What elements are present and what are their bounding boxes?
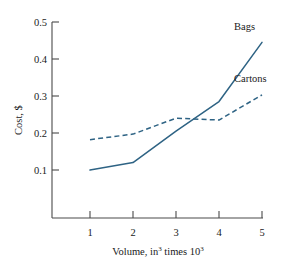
series-label-cartons: Cartons [234, 73, 267, 84]
y-tick-label-5: 0.5 [34, 17, 47, 28]
y-tick-label-4: 0.4 [34, 54, 48, 65]
chart-figure: 0.5 0.4 0.3 0.2 0.1 1 2 3 4 5 Volume, in… [0, 0, 285, 267]
x-axis-title-lead: Volume, in [112, 246, 159, 257]
x-tick-label-1: 1 [87, 227, 92, 238]
x-axis-title-mid: times 10 [162, 246, 201, 257]
x-axis-title: Volume, in3 times 103 [112, 245, 204, 257]
x-tick-label-2: 2 [130, 227, 135, 238]
x-axis-title-sup2: 3 [200, 245, 204, 253]
y-tick-label-3: 0.3 [34, 91, 47, 102]
y-tick-label-1: 0.1 [34, 165, 47, 176]
series-line-cartons [90, 95, 262, 140]
x-tick-label-3: 3 [173, 227, 178, 238]
series-label-bags: Bags [234, 21, 255, 32]
y-tick-label-2: 0.2 [34, 128, 47, 139]
series-line-bags [90, 42, 262, 170]
line-chart-canvas: 0.5 0.4 0.3 0.2 0.1 1 2 3 4 5 Volume, in… [0, 0, 285, 267]
x-tick-label-5: 5 [259, 227, 264, 238]
x-tick-label-4: 4 [216, 227, 222, 238]
y-axis-title: Cost, $ [13, 105, 24, 135]
